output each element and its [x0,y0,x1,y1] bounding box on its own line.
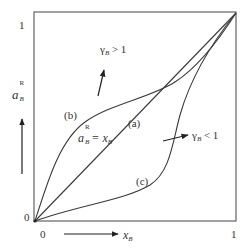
origin-point [33,219,36,222]
eq-rhs-sub: B [108,138,112,146]
y-tick-min: 0 [24,212,30,223]
gamma-gt-1-label: γB > 1 [100,44,126,57]
x-tick-min: 0 [40,229,46,240]
diagram-canvas [0,0,250,252]
gamma-lt-1-label: γB < 1 [192,130,218,143]
curve-b-label: (b) [64,110,77,121]
y-axis-label: aRB [12,88,23,103]
curve-a-equation: aRB = xB [78,132,112,146]
x-axis-label: xB [123,229,133,243]
y-axis-label-sup: R [20,80,25,87]
eq-rhs: = x [91,131,107,145]
y-tick-max: 1 [19,20,25,31]
x-tick-max: 1 [231,229,237,240]
curve-a-label: (a) [128,118,140,129]
gamma-lt-rel: < 1 [201,129,218,141]
gamma-gt-rel: > 1 [109,43,126,55]
x-axis-label-sub: B [128,235,132,243]
curve-c-label: (c) [136,176,148,187]
arrow-gamma-gt-1-icon [98,70,104,96]
eq-lhs-sub: B [85,138,89,146]
eq-lhs-sup: R [85,124,90,131]
y-axis-label-sub: B [20,95,24,103]
